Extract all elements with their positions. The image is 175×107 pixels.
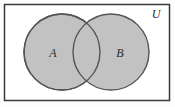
venn-diagram-canvas: A B U xyxy=(0,0,175,107)
set-a-label: A xyxy=(48,46,57,60)
venn-diagram-figure: A B U xyxy=(0,0,175,107)
set-b-circle xyxy=(73,14,149,90)
set-b-label: B xyxy=(116,46,124,60)
universe-label: U xyxy=(152,7,162,21)
